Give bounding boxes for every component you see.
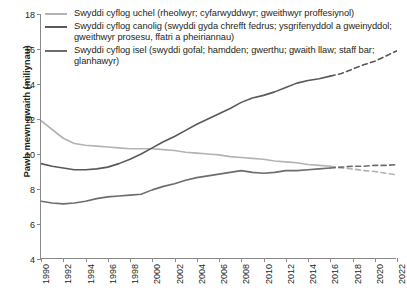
x-axis-tick-mark bbox=[286, 258, 287, 262]
y-axis-tick-mark bbox=[37, 189, 41, 190]
y-axis-tick-label: 4 bbox=[30, 255, 35, 265]
x-axis-tick-mark bbox=[152, 258, 153, 262]
y-axis-tick: 6 bbox=[30, 215, 41, 233]
series-line-low-paid-jobs bbox=[41, 168, 330, 204]
x-axis-tick-label: 2014 bbox=[308, 264, 318, 284]
x-axis-tick-label: 2006 bbox=[219, 264, 229, 284]
y-axis-tick: 16 bbox=[25, 40, 41, 58]
x-axis-tick-mark bbox=[330, 258, 331, 262]
y-axis-tick-mark bbox=[37, 119, 41, 120]
x-axis-tick-label: 2002 bbox=[175, 264, 185, 284]
x-axis-tick-label: 1996 bbox=[108, 264, 118, 284]
x-axis-tick-label: 2008 bbox=[241, 264, 251, 284]
x-axis-tick-label: 2022 bbox=[397, 264, 407, 284]
legend-item[interactable]: Swyddi cyflog canolig (swyddi gyda chref… bbox=[45, 21, 397, 44]
x-axis-tick-label: 1990 bbox=[41, 264, 51, 284]
y-axis-tick: 12 bbox=[25, 110, 41, 128]
y-axis-tick: 10 bbox=[25, 145, 41, 163]
x-axis-tick-label: 2018 bbox=[353, 264, 363, 284]
x-axis-tick-label: 1992 bbox=[63, 264, 73, 284]
x-axis-tick-label: 2012 bbox=[286, 264, 296, 284]
chart-legend: Swyddi cyflog uchel (rheolwyr; cyfarwydd… bbox=[45, 8, 397, 69]
y-axis-tick-label: 6 bbox=[30, 220, 35, 230]
legend-item-label: Swyddi cyflog canolig (swyddi gyda chref… bbox=[74, 21, 397, 44]
x-axis-tick-mark bbox=[63, 258, 64, 262]
y-axis-tick: 18 bbox=[25, 5, 41, 23]
y-axis-tick: 14 bbox=[25, 75, 41, 93]
x-axis-tick-mark bbox=[308, 258, 309, 262]
x-axis-tick-label: 1998 bbox=[130, 264, 140, 284]
y-axis-tick-mark bbox=[37, 49, 41, 50]
x-axis-tick-mark bbox=[353, 258, 354, 262]
y-axis-tick-label: 12 bbox=[25, 115, 35, 125]
legend-item[interactable]: Swyddi cyflog isel (swyddi gofal; hamdde… bbox=[45, 45, 397, 68]
legend-swatch-icon bbox=[45, 50, 67, 52]
y-axis-tick-label: 8 bbox=[30, 185, 35, 195]
x-axis-tick-mark bbox=[375, 258, 376, 262]
x-axis-tick-label: 2000 bbox=[152, 264, 162, 284]
y-axis-tick-mark bbox=[37, 14, 41, 15]
x-axis-tick-mark bbox=[264, 258, 265, 262]
x-axis-tick-mark bbox=[397, 258, 398, 262]
series-line-low-paid-jobs-projection bbox=[330, 165, 397, 169]
y-axis-tick-mark bbox=[37, 154, 41, 155]
legend-item-label: Swyddi cyflog uchel (rheolwyr; cyfarwydd… bbox=[74, 8, 354, 20]
series-line-high-paid-jobs bbox=[41, 121, 330, 167]
x-axis-tick-mark bbox=[130, 258, 131, 262]
x-axis-tick-mark bbox=[86, 258, 87, 262]
y-axis-tick-label: 18 bbox=[25, 10, 35, 20]
y-axis-tick-mark bbox=[37, 84, 41, 85]
series-line-mid-paid-jobs bbox=[41, 76, 330, 170]
line-chart: Pawb mewn gwaith (miliynau) 468101214161… bbox=[0, 0, 407, 307]
x-axis-tick-mark bbox=[197, 258, 198, 262]
x-axis-tick-mark bbox=[175, 258, 176, 262]
x-axis-tick-mark bbox=[219, 258, 220, 262]
y-axis-tick-mark bbox=[37, 224, 41, 225]
legend-swatch-icon bbox=[45, 13, 67, 15]
y-axis-tick-label: 10 bbox=[25, 150, 35, 160]
x-axis-tick-mark bbox=[108, 258, 109, 262]
y-axis-tick: 8 bbox=[30, 180, 41, 198]
y-axis-tick-label: 14 bbox=[25, 80, 35, 90]
x-axis-tick-label: 1994 bbox=[86, 264, 96, 284]
x-axis-tick-label: 2020 bbox=[375, 264, 385, 284]
x-axis-tick-label: 2004 bbox=[197, 264, 207, 284]
x-axis-tick-mark bbox=[41, 258, 42, 262]
legend-swatch-icon bbox=[45, 26, 67, 28]
x-axis-tick-label: 2016 bbox=[330, 264, 340, 284]
legend-item-label: Swyddi cyflog isel (swyddi gofal; hamdde… bbox=[74, 45, 397, 68]
y-axis-tick-label: 16 bbox=[25, 45, 35, 55]
x-axis-tick-mark bbox=[241, 258, 242, 262]
y-axis-tick: 4 bbox=[30, 250, 41, 268]
legend-item[interactable]: Swyddi cyflog uchel (rheolwyr; cyfarwydd… bbox=[45, 8, 397, 20]
x-axis-tick-label: 2010 bbox=[264, 264, 274, 284]
